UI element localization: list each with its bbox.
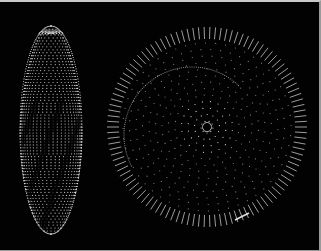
sphere-point-cloud	[100, 4, 319, 250]
ellipsoid-point-cloud	[0, 4, 100, 250]
ellipsoid-panel: elongated ellipsoid point cloud	[0, 4, 100, 250]
sphere-panel: spherical point cloud, polar view	[100, 4, 319, 250]
image-frame: elongated ellipsoid point cloud spherica…	[0, 0, 321, 251]
